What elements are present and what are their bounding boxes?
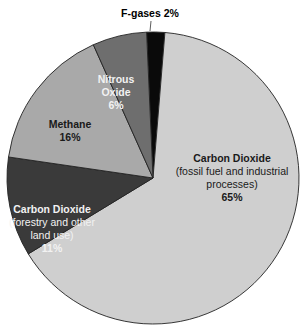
f-gases-leader-line xyxy=(150,21,151,31)
pie-chart: Carbon Dioxide(fossil fuel and industria… xyxy=(0,0,304,334)
label-f-gases: F-gases 2% xyxy=(121,7,179,19)
